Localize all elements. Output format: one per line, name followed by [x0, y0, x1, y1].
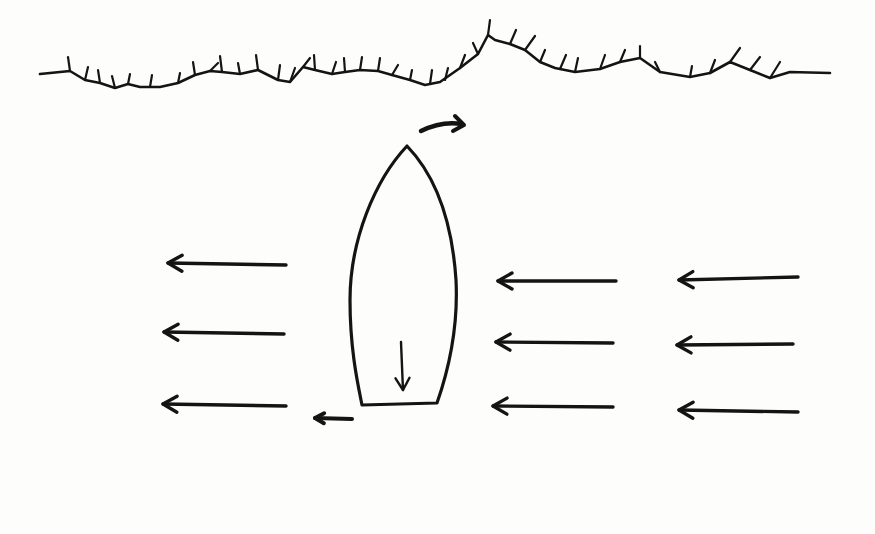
boat-icon	[350, 146, 456, 405]
current-arrow-left-icon	[677, 337, 793, 353]
current-arrow-left-icon	[163, 396, 286, 412]
current-arrow-left-icon	[679, 402, 798, 418]
drift-down-arrow-icon	[396, 342, 410, 390]
current-arrow-left-icon	[498, 273, 616, 289]
current-arrow-left-icon	[493, 398, 613, 414]
diagram-canvas	[0, 0, 875, 534]
current-arrow-left-icon	[168, 255, 286, 271]
arrow-left-icon	[315, 413, 352, 423]
current-arrows	[163, 255, 798, 418]
current-arrow-left-icon	[496, 334, 613, 350]
current-arrow-left-icon	[679, 272, 798, 288]
shoreline-icon	[40, 20, 830, 88]
current-arrow-left-icon	[164, 324, 284, 340]
curved-arrow-right-icon	[421, 116, 464, 131]
arrow-down-icon	[396, 342, 410, 390]
short-arrow-left-icon	[315, 413, 352, 423]
